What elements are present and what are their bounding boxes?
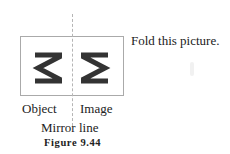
sigma-icon <box>79 52 111 84</box>
object-label: Object <box>22 102 57 115</box>
faint-mark <box>190 62 194 76</box>
figure-caption: Figure 9.44 <box>44 137 101 148</box>
reversed-sigma-icon <box>32 52 64 84</box>
mirror-line <box>72 14 73 126</box>
image-label: Image <box>80 102 112 115</box>
mirror-line-label: Mirror line <box>41 121 98 134</box>
instruction-text: Fold this picture. <box>131 33 219 49</box>
